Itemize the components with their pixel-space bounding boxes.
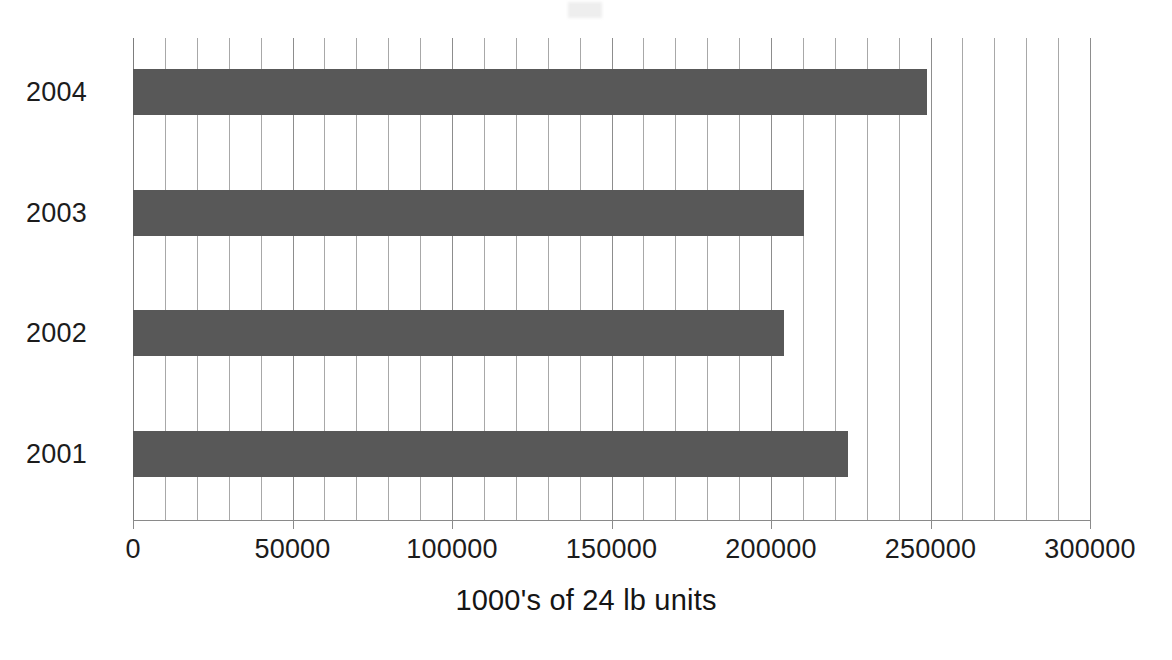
- x-tickmark: [133, 520, 134, 529]
- x-axis-title: 1000's of 24 lb units: [0, 582, 1172, 618]
- gridline-major: [1090, 38, 1091, 520]
- y-axis-label-2003: 2003: [26, 198, 122, 228]
- x-tick-label: 250000: [885, 533, 976, 565]
- x-tick-label: 300000: [1044, 533, 1135, 565]
- x-tickmark: [452, 520, 453, 529]
- x-tickmark: [293, 520, 294, 529]
- x-tick-label: 200000: [725, 533, 816, 565]
- bar: [133, 431, 848, 477]
- x-tickmark: [931, 520, 932, 529]
- bar: [133, 190, 804, 236]
- bar-chart: 2004200320022001 05000010000015000020000…: [0, 0, 1172, 660]
- x-tickmark: [771, 520, 772, 529]
- y-axis-label-2004: 2004: [26, 77, 122, 107]
- y-axis-label-2001: 2001: [26, 439, 122, 469]
- x-tick-label: 150000: [566, 533, 657, 565]
- bar: [133, 310, 784, 356]
- x-tickmark: [1090, 520, 1091, 529]
- bar: [133, 69, 927, 115]
- x-tick-label: 0: [125, 533, 140, 565]
- bar-row: [133, 279, 1090, 400]
- x-tickmark: [612, 520, 613, 529]
- scan-artifact: [568, 2, 602, 18]
- plot-area: [133, 38, 1090, 520]
- bar-row: [133, 400, 1090, 521]
- x-tick-label: 100000: [406, 533, 497, 565]
- x-tick-label: 50000: [254, 533, 330, 565]
- bar-row: [133, 38, 1090, 159]
- bar-row: [133, 159, 1090, 280]
- y-axis-label-2002: 2002: [26, 318, 122, 348]
